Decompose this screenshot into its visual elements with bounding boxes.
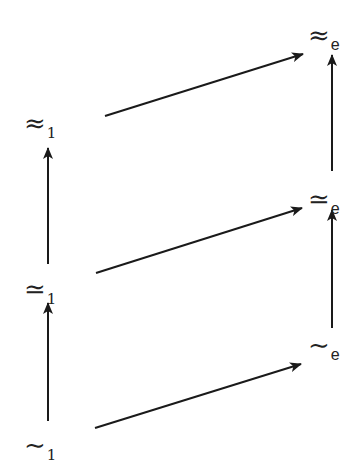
sim-symbol: ∼: [24, 430, 46, 460]
subscript: 1: [47, 446, 57, 464]
arrow-approx1-to-approxe: [105, 54, 303, 116]
node-simeq-e: ≃e: [308, 186, 340, 212]
subscript: e: [331, 36, 340, 53]
approx-symbol: ≈: [308, 20, 330, 50]
simeq-symbol: ≃: [24, 274, 46, 304]
subscript: 1: [47, 290, 57, 308]
simeq-symbol: ≃: [308, 184, 330, 214]
subscript: e: [331, 346, 340, 363]
diagram-canvas: [0, 0, 361, 475]
arrow-simeq1-to-simeqe: [96, 208, 302, 273]
subscript: e: [331, 200, 340, 217]
arrow-sim1-to-sime: [95, 364, 301, 428]
approx-symbol: ≈: [24, 108, 46, 138]
node-simeq-1: ≃1: [24, 276, 56, 302]
node-sim-1: ∼1: [24, 432, 56, 458]
subscript: 1: [47, 124, 57, 142]
node-approx-e: ≈e: [308, 22, 340, 48]
node-sim-e: ∼e: [308, 332, 340, 358]
node-approx-1: ≈1: [24, 110, 56, 136]
sim-symbol: ∼: [308, 330, 330, 360]
